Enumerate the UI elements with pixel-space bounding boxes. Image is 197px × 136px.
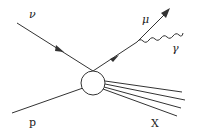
neutrino-arrow-icon [55,45,64,52]
muon-line [93,8,170,71]
photon-label: γ [172,42,179,55]
neutrino-label: ν [29,8,36,21]
hadron-jet-lines [103,81,185,116]
proton-label: p [29,116,36,129]
muon-label: μ [142,13,149,26]
photon-wavy-line [137,33,183,42]
proton-line [12,88,83,113]
neutrino-line [17,23,93,71]
muon-arrow-icon [110,55,119,62]
feynman-diagram: ν μ γ p X [0,0,197,136]
hadrons-label: X [151,117,159,130]
interaction-vertex-circle [81,71,105,95]
